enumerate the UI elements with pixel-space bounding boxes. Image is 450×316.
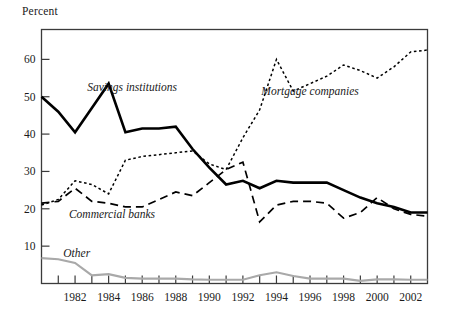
chart-figure: Percent 102030405060 1982198419861988199… [0,0,450,316]
x-tick-label: 1988 [164,291,187,303]
x-tick-label: 1992 [231,291,254,303]
y-tick-label: 50 [24,91,36,103]
x-tick-label: 1998 [332,291,355,303]
plot-border [42,30,428,284]
x-axis-tick-labels: 1982198419861988199019921994199619982000… [64,291,423,303]
x-tick-label: 1984 [97,291,120,303]
x-tick-label: 2002 [399,291,422,303]
series-label-savings-institutions: Savings institutions [87,81,177,94]
x-tick-label: 1990 [198,291,221,303]
x-tick-label: 1994 [265,291,288,303]
series-line-savings-institutions [42,84,428,213]
y-tick-label: 30 [24,165,36,177]
x-tick-label: 1986 [131,291,154,303]
x-tick-label: 1996 [299,291,322,303]
line-chart-plot: 102030405060 198219841986198819901992199… [0,0,450,316]
y-tick-label: 40 [24,128,36,140]
y-tick-label: 20 [24,203,36,215]
y-tick-label: 60 [24,53,36,65]
series-line-other [42,258,428,281]
series-label-other: Other [63,247,90,259]
plot-frame [42,30,428,284]
y-axis-tick-labels: 102030405060 [24,53,36,252]
series-label-mortgage-companies: Mortgage companies [260,85,359,98]
y-tick-label: 10 [24,240,36,252]
series-label-commercial-banks: Commercial banks [69,208,156,220]
x-tick-label: 2000 [366,291,389,303]
x-tick-label: 1982 [64,291,87,303]
